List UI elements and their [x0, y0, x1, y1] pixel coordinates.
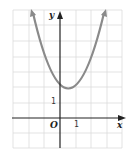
y-axis-arrow-icon — [57, 11, 63, 19]
grid — [13, 10, 122, 148]
origin-label: O — [50, 120, 58, 130]
chart-canvas — [0, 0, 133, 151]
x-tick-label: 1 — [74, 120, 79, 129]
x-axis-label: x — [117, 120, 122, 130]
y-tick-label: 1 — [51, 97, 56, 106]
y-axis-label: y — [49, 10, 54, 20]
